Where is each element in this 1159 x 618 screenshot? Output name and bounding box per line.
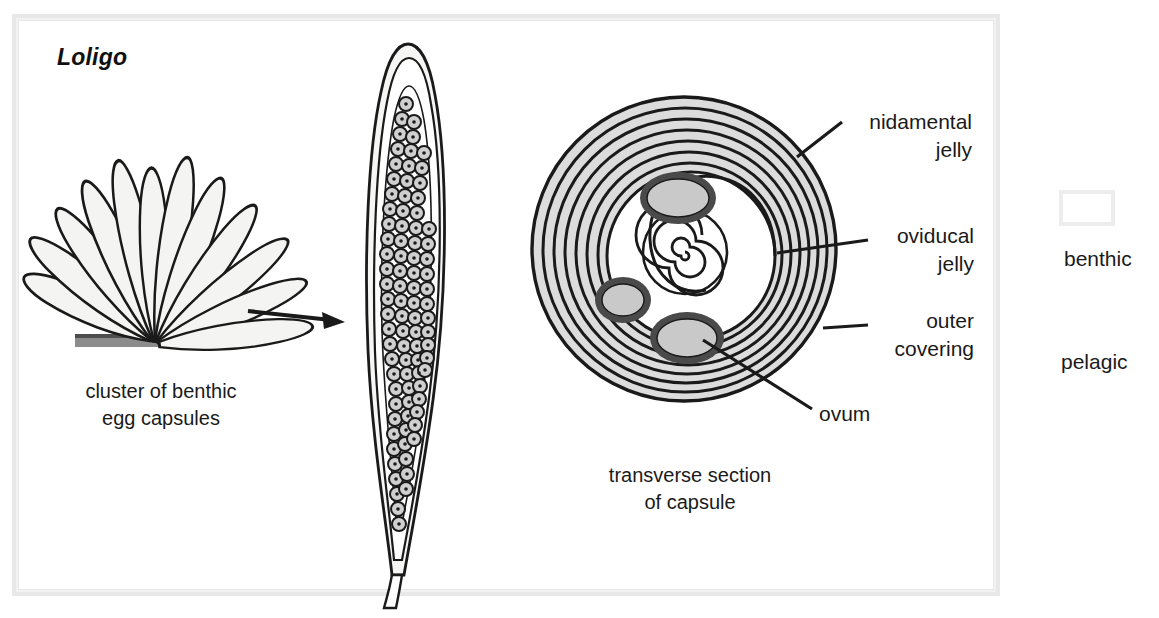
callout-ovum: ovum	[819, 400, 929, 428]
caption-cluster: cluster of benthic egg capsules	[36, 378, 286, 432]
leader-outer-covering	[823, 325, 868, 328]
caption-transverse-section: transverse section of capsule	[540, 462, 840, 516]
legend-key-box	[1059, 190, 1115, 226]
callout-oviducal-jelly: oviducal jelly	[880, 222, 974, 278]
cluster-of-egg-capsules	[17, 155, 314, 359]
diagram-artwork	[0, 0, 1159, 618]
legend-label-pelagic: pelagic	[1061, 350, 1128, 374]
legend-label-benthic: benthic	[1064, 247, 1132, 271]
transverse-section	[532, 97, 868, 409]
capsule-blade-group	[17, 155, 314, 359]
callout-outer-covering: outer covering	[880, 307, 974, 363]
callout-nidamental-jelly: nidamental jelly	[832, 108, 972, 164]
single-egg-capsule	[367, 44, 445, 608]
capsule-stalk	[384, 575, 402, 608]
genus-label: Loligo	[57, 44, 127, 71]
figure-root: Loligo cluster of benthic egg capsules t…	[0, 0, 1159, 618]
